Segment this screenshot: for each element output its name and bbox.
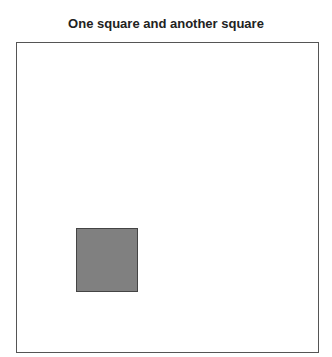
chart-title: One square and another square [0, 16, 332, 31]
gray-square [76, 228, 138, 292]
plot-area [16, 42, 319, 353]
